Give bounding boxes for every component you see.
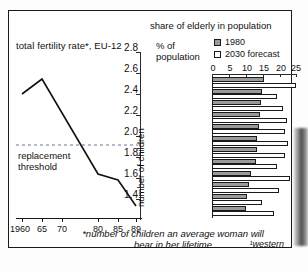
bar-2030 bbox=[212, 141, 288, 146]
line-chart-x-axis bbox=[16, 218, 142, 219]
x-tick-70 bbox=[62, 218, 63, 222]
bar-2030 bbox=[212, 106, 283, 111]
bar-chart-x-axis bbox=[212, 74, 297, 75]
legend-item-1980: 1980 bbox=[214, 36, 280, 48]
bar-chart-axis-label: % of population bbox=[156, 40, 200, 62]
x-tick-1960 bbox=[22, 218, 23, 222]
bar-2030 bbox=[212, 83, 296, 88]
bar-1980 bbox=[212, 100, 261, 105]
legend-label-1980: 1980 bbox=[225, 36, 245, 48]
y-label-2-6: 2.6 bbox=[124, 63, 138, 74]
bar-2030 bbox=[212, 176, 290, 181]
bar-num-25: 25 bbox=[291, 63, 301, 73]
legend-swatch-1980-icon bbox=[214, 39, 221, 46]
footnote: *number of children an average woman wil… bbox=[60, 228, 286, 250]
bar-num-15: 15 bbox=[259, 63, 269, 73]
y-label-2-2: 2.2 bbox=[124, 105, 138, 116]
bar-2030 bbox=[212, 211, 274, 216]
legend-swatch-2030-icon bbox=[214, 51, 221, 58]
bar-1980 bbox=[212, 159, 256, 164]
x-tick-65 bbox=[42, 218, 43, 222]
bar-1980 bbox=[212, 89, 262, 94]
bar-1980 bbox=[212, 182, 249, 187]
line-chart-title: total fertility rate*, EU-12 bbox=[16, 40, 122, 51]
bar-1980 bbox=[212, 206, 246, 211]
replacement-threshold-label: replacement threshold bbox=[18, 150, 70, 172]
bar-tick-20 bbox=[280, 74, 281, 77]
bar-1980 bbox=[212, 124, 259, 129]
bar-num-10: 10 bbox=[242, 63, 252, 73]
fertility-line-plot bbox=[16, 58, 138, 218]
infographic-root: total fertility rate*, EU-12 1960 65 70 … bbox=[0, 0, 308, 272]
x-tick-85 bbox=[118, 218, 119, 222]
x-tick-89 bbox=[136, 218, 137, 222]
bar-1980 bbox=[212, 136, 257, 141]
axis-label-line1: % of bbox=[156, 40, 200, 51]
footnote-western: ¹western bbox=[249, 239, 284, 250]
line-chart-y-axis-title: number of children bbox=[135, 128, 146, 207]
bar-1980 bbox=[212, 77, 264, 82]
bar-2030 bbox=[212, 129, 285, 134]
footnote-line1: *number of children an average woman wil… bbox=[60, 228, 286, 239]
bar-2030 bbox=[212, 164, 277, 169]
bar-1980 bbox=[212, 171, 251, 176]
replacement-line2: threshold bbox=[18, 161, 70, 172]
x-tick-80 bbox=[98, 218, 99, 222]
bar-chart-legend: 1980 2030 forecast bbox=[214, 36, 280, 60]
bar-num-0: 0 bbox=[210, 63, 215, 73]
bar-2030 bbox=[212, 200, 262, 205]
bar-1980 bbox=[212, 147, 257, 152]
legend-label-2030: 2030 forecast bbox=[225, 48, 280, 60]
bar-chart-header: share of elderly in population bbox=[150, 20, 271, 31]
bar-2030 bbox=[212, 153, 285, 158]
bar-1980 bbox=[212, 112, 260, 117]
axis-label-line2: population bbox=[156, 51, 200, 62]
y-label-2-4: 2.4 bbox=[124, 84, 138, 95]
bar-2030 bbox=[212, 118, 287, 123]
bar-tick-25 bbox=[296, 74, 297, 77]
y-label-2-8: 2.8 bbox=[124, 42, 138, 53]
fertility-rate-line bbox=[22, 79, 136, 206]
bar-num-20: 20 bbox=[276, 63, 286, 73]
legend-item-2030: 2030 forecast bbox=[214, 48, 280, 60]
replacement-line1: replacement bbox=[18, 150, 70, 161]
bar-1980 bbox=[212, 194, 247, 199]
photo-edge-decoration bbox=[294, 128, 308, 246]
x-label-1960: 1960 bbox=[10, 224, 30, 234]
bar-num-5: 5 bbox=[227, 63, 232, 73]
bar-2030 bbox=[212, 94, 277, 99]
x-label-65: 65 bbox=[37, 224, 47, 234]
bar-2030 bbox=[212, 188, 279, 193]
